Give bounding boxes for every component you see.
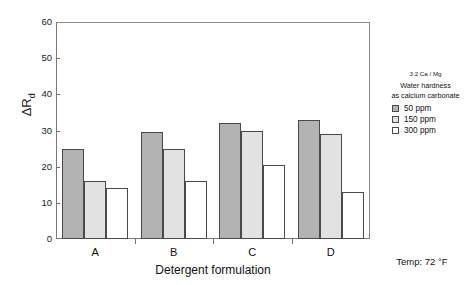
legend-swatch-icon: [392, 116, 399, 123]
bar-b-150-ppm: [163, 149, 185, 239]
legend-title-line1: Water hardness: [378, 81, 473, 91]
x-tick-mark: [135, 239, 136, 244]
bar-a-50-ppm: [62, 149, 84, 239]
y-tick-label: 50: [28, 53, 52, 63]
x-tick-label: B: [144, 246, 204, 258]
y-tick-mark: [56, 167, 60, 168]
x-tick-mark: [292, 239, 293, 244]
bar-d-300-ppm: [342, 192, 364, 239]
temperature-annotation: Temp: 72 °F: [372, 256, 472, 267]
legend-item-label: 50 ppm: [404, 104, 431, 113]
legend-swatch-icon: [392, 127, 399, 134]
bar-c-50-ppm: [219, 123, 241, 239]
legend-ratio-text: 3:2 Ca / Mg: [378, 70, 473, 77]
y-tick-mark: [56, 131, 60, 132]
bar-b-50-ppm: [141, 132, 163, 239]
legend: 3:2 Ca / Mg Water hardness as calcium ca…: [378, 70, 473, 137]
legend-swatch-icon: [392, 105, 399, 112]
legend-item-label: 150 ppm: [404, 115, 436, 124]
y-tick-label: 10: [28, 198, 52, 208]
x-tick-label: D: [301, 246, 361, 258]
legend-item-label: 300 ppm: [404, 126, 436, 135]
y-tick-mark: [56, 203, 60, 204]
chart-container: ΔRd 0102030405060 ABCD Detergent formula…: [0, 0, 473, 285]
y-tick-label: 60: [28, 17, 52, 27]
x-tick-label: C: [222, 246, 282, 258]
legend-item[interactable]: 300 ppm: [392, 126, 473, 135]
legend-title-line2: as calcium carbonate: [378, 91, 473, 101]
bar-c-300-ppm: [263, 165, 285, 239]
y-tick-label: 20: [28, 162, 52, 172]
bar-a-150-ppm: [84, 181, 106, 239]
y-tick-label: 0: [28, 234, 52, 244]
x-tick-label: A: [65, 246, 125, 258]
legend-item[interactable]: 50 ppm: [392, 104, 473, 113]
y-axis-label-text: ΔR: [19, 98, 34, 116]
bar-d-50-ppm: [298, 120, 320, 239]
legend-item[interactable]: 150 ppm: [392, 115, 473, 124]
bar-b-300-ppm: [185, 181, 207, 239]
bar-c-150-ppm: [241, 131, 263, 240]
y-tick-mark: [56, 94, 60, 95]
y-tick-label: 30: [28, 126, 52, 136]
y-tick-mark: [56, 58, 60, 59]
bar-d-150-ppm: [320, 134, 342, 239]
y-tick-label: 40: [28, 89, 52, 99]
x-axis-label: Detergent formulation: [56, 263, 370, 277]
bar-a-300-ppm: [106, 188, 128, 239]
legend-title: Water hardness as calcium carbonate: [378, 81, 473, 100]
legend-entries: 50 ppm150 ppm300 ppm: [378, 104, 473, 135]
x-tick-mark: [213, 239, 214, 244]
